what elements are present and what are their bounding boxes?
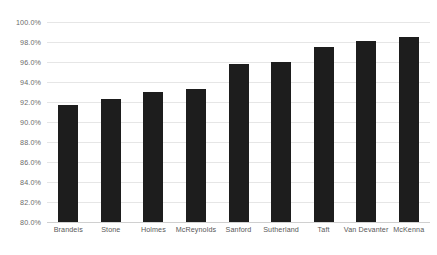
bar	[229, 64, 249, 222]
x-axis-tick-label: Stone	[101, 225, 120, 234]
x-axis-tick-label: McKenna	[393, 225, 424, 234]
gridline	[47, 222, 430, 223]
y-axis-tick-label: 86.0%	[20, 158, 41, 167]
bar	[143, 92, 163, 222]
y-axis-tick-label: 96.0%	[20, 58, 41, 67]
y-axis-tick-label: 88.0%	[20, 138, 41, 147]
x-axis-tick-label: McReynolds	[176, 225, 217, 234]
x-axis-tick-label: Holmes	[141, 225, 166, 234]
x-axis-tick-labels: BrandeisStoneHolmesMcReynoldsSanfordSuth…	[47, 225, 430, 245]
bar-chart: 100.0%98.0%96.0%94.0%92.0%90.0%88.0%86.0…	[0, 0, 437, 255]
bar	[314, 47, 334, 222]
x-axis-tick-label: Taft	[318, 225, 330, 234]
y-axis-tick-label: 80.0%	[20, 218, 41, 227]
y-axis-tick-label: 92.0%	[20, 98, 41, 107]
y-axis-tick-labels: 100.0%98.0%96.0%94.0%92.0%90.0%88.0%86.0…	[0, 0, 47, 255]
y-axis-tick-label: 82.0%	[20, 198, 41, 207]
y-axis-tick-label: 94.0%	[20, 78, 41, 87]
y-axis-tick-label: 100.0%	[16, 18, 41, 27]
bar	[271, 62, 291, 222]
bars-layer	[47, 22, 430, 222]
x-axis-tick-label: Sanford	[226, 225, 252, 234]
x-axis-tick-label: Van Devanter	[344, 225, 389, 234]
bar	[58, 105, 78, 222]
x-axis-tick-label: Sutherland	[263, 225, 299, 234]
x-axis-tick-label: Brandeis	[54, 225, 83, 234]
bar	[399, 37, 419, 222]
bar	[186, 89, 206, 222]
y-axis-tick-label: 84.0%	[20, 178, 41, 187]
bar	[356, 41, 376, 222]
y-axis-tick-label: 98.0%	[20, 38, 41, 47]
bar	[101, 99, 121, 222]
y-axis-tick-label: 90.0%	[20, 118, 41, 127]
